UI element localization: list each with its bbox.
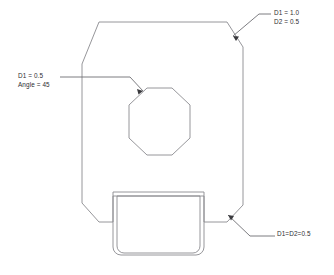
- bottom-right-chamfer-callout: D1=D2=0.5: [277, 229, 311, 238]
- left-callout-line2: Angle = 45: [18, 80, 50, 89]
- top-right-callout-line1: D1 = 1.0: [274, 8, 299, 17]
- top-right-leader-line: [233, 14, 271, 36]
- left-callout-line1: D1 = 0.5: [18, 71, 50, 80]
- tab-outer-outline: [113, 192, 204, 255]
- left-leader-line: [60, 77, 143, 91]
- bottom-right-callout-line1: D1=D2=0.5: [277, 229, 311, 238]
- technical-drawing-canvas: D1 = 1.0 D2 = 0.5 D1 = 0.5 Angle = 45 D1…: [0, 0, 334, 275]
- octagonal-hole: [129, 88, 190, 155]
- tab-inner-outline: [117, 196, 200, 253]
- top-right-callout-line2: D2 = 0.5: [274, 17, 299, 26]
- top-right-chamfer-callout: D1 = 1.0 D2 = 0.5: [274, 8, 299, 26]
- bottom-right-leader-line: [228, 215, 275, 236]
- octagon-chamfer-callout: D1 = 0.5 Angle = 45: [18, 71, 50, 89]
- top-right-leader-arrowhead: [233, 36, 239, 41]
